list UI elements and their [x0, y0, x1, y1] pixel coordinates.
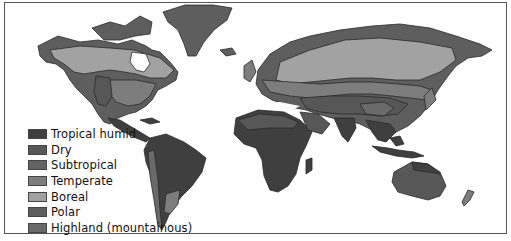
swatch-boreal [28, 192, 47, 202]
region-iceland [220, 48, 236, 56]
region-india [334, 118, 356, 142]
region-uk [244, 60, 256, 82]
region-madagascar [306, 158, 312, 174]
legend-label: Highland (mountainous) [51, 221, 192, 235]
swatch-temperate [28, 176, 47, 186]
swatch-subtropical [28, 160, 47, 170]
legend-item-highland: Highland (mountainous) [28, 220, 192, 236]
legend-item-subtropical: Subtropical [28, 157, 192, 173]
swatch-tropical-humid [28, 129, 47, 139]
legend-item-tropical-humid: Tropical humid [28, 126, 192, 142]
legend: Tropical humid Dry Subtropical Temperate… [28, 126, 192, 236]
region-arctic-islands [92, 16, 152, 40]
legend-item-boreal: Boreal [28, 189, 192, 205]
legend-label: Dry [51, 143, 72, 157]
legend-label: Tropical humid [51, 127, 136, 141]
swatch-dry [28, 145, 47, 155]
legend-label: Boreal [51, 190, 88, 204]
legend-item-dry: Dry [28, 142, 192, 158]
legend-item-temperate: Temperate [28, 173, 192, 189]
legend-label: Temperate [51, 174, 113, 188]
legend-label: Subtropical [51, 158, 117, 172]
legend-item-polar: Polar [28, 204, 192, 220]
region-greenland [163, 5, 232, 56]
region-caribbean [140, 118, 160, 124]
region-indonesia [372, 146, 424, 158]
region-new-zealand [462, 190, 474, 206]
region-borneo [390, 136, 404, 146]
swatch-polar [28, 207, 47, 217]
legend-label: Polar [51, 205, 80, 219]
swatch-highland [28, 223, 47, 233]
